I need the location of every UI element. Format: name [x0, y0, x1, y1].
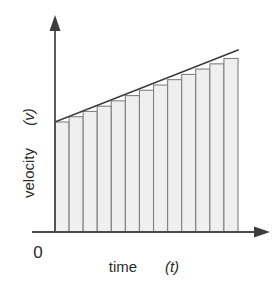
riemann-bar	[83, 111, 97, 232]
riemann-bar	[182, 74, 196, 232]
riemann-bar	[224, 58, 238, 232]
riemann-sum-svg: 0 time (t) velocity (v)	[0, 0, 280, 290]
arrow-right-icon	[254, 227, 270, 238]
y-axis-label: velocity (v)	[20, 108, 37, 198]
x-axis-label: time (t)	[109, 258, 179, 275]
riemann-bar	[111, 101, 125, 232]
riemann-bar	[210, 64, 224, 232]
riemann-bar	[168, 80, 182, 232]
riemann-bar	[139, 90, 153, 232]
y-axis-label-variable: (v)	[20, 108, 37, 126]
x-axis-label-main: time	[109, 258, 137, 275]
riemann-bar	[69, 117, 83, 232]
riemann-bar	[196, 69, 210, 232]
riemann-bar	[154, 85, 168, 232]
x-axis-label-variable: (t)	[165, 258, 179, 275]
riemann-bars-group	[55, 58, 238, 232]
velocity-time-chart: 0 time (t) velocity (v)	[0, 0, 280, 290]
riemann-bar	[125, 96, 139, 232]
origin-label: 0	[33, 243, 42, 262]
riemann-bar	[97, 106, 111, 232]
y-axis-label-main: velocity	[20, 147, 37, 198]
arrow-up-icon	[50, 15, 61, 31]
riemann-bar	[55, 122, 69, 232]
